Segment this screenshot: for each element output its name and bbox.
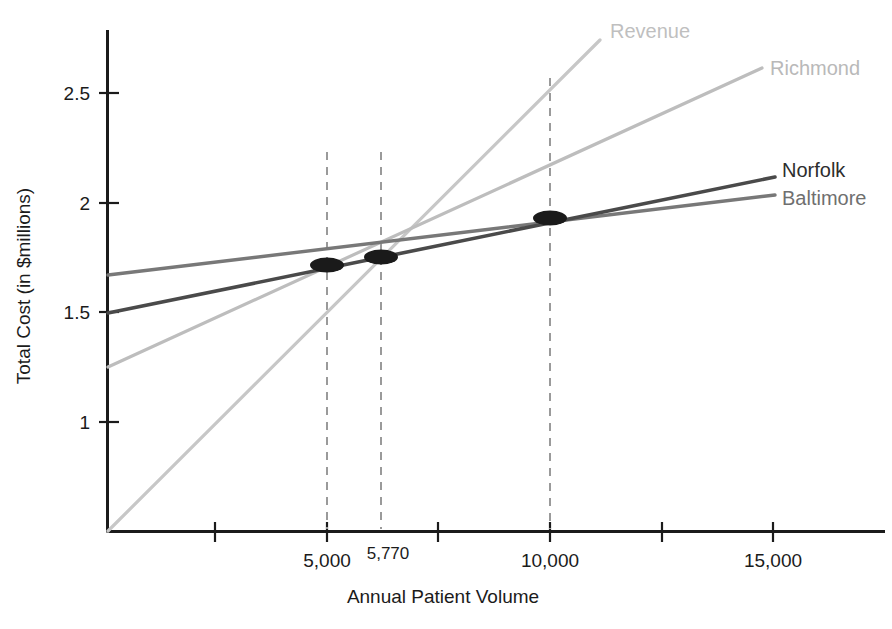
marker-norfolk-5000: [310, 258, 344, 273]
series-label-norfolk: Norfolk: [782, 159, 846, 181]
series-line-richmond: [108, 68, 762, 367]
x-axis-title: Annual Patient Volume: [347, 586, 539, 607]
line-chart-svg: 2.5 2 1.5 1 5,000 5,770 10,000 15,000 An…: [0, 0, 892, 629]
marker-crossover-5770: [364, 250, 398, 265]
y-tick-label-2-5: 2.5: [64, 83, 90, 104]
x-tick-label-10000: 10,000: [521, 550, 579, 571]
marker-crossover-10000: [533, 211, 567, 226]
x-tick-label-15000: 15,000: [744, 550, 802, 571]
y-tick-label-2: 2: [79, 193, 90, 214]
series-label-richmond: Richmond: [770, 57, 860, 79]
series-line-revenue: [108, 40, 600, 531]
series-lines-group: [108, 40, 775, 531]
series-label-baltimore: Baltimore: [782, 187, 866, 209]
series-label-revenue: Revenue: [610, 20, 690, 42]
chart-container: 2.5 2 1.5 1 5,000 5,770 10,000 15,000 An…: [0, 0, 892, 629]
y-axis-title: Total Cost (in $millions): [13, 188, 34, 384]
x-tick-label-5000: 5,000: [303, 550, 351, 571]
y-tick-label-1: 1: [79, 412, 90, 433]
axis-group: [107, 30, 885, 533]
x-tick-label-5770: 5,770: [367, 544, 410, 563]
y-tick-label-1-5: 1.5: [64, 302, 90, 323]
reference-lines-group: [327, 78, 550, 529]
series-line-baltimore: [108, 195, 775, 275]
